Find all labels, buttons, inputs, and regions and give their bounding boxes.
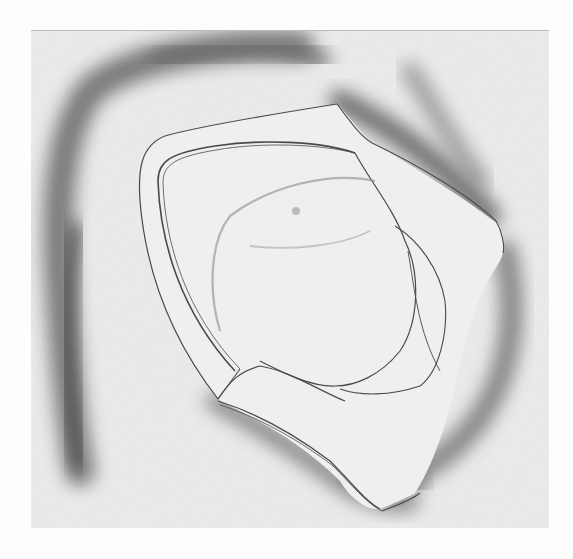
illustration-plate: [31, 30, 549, 528]
page-canvas: [0, 0, 573, 559]
anatomical-drawing: [31, 31, 549, 528]
